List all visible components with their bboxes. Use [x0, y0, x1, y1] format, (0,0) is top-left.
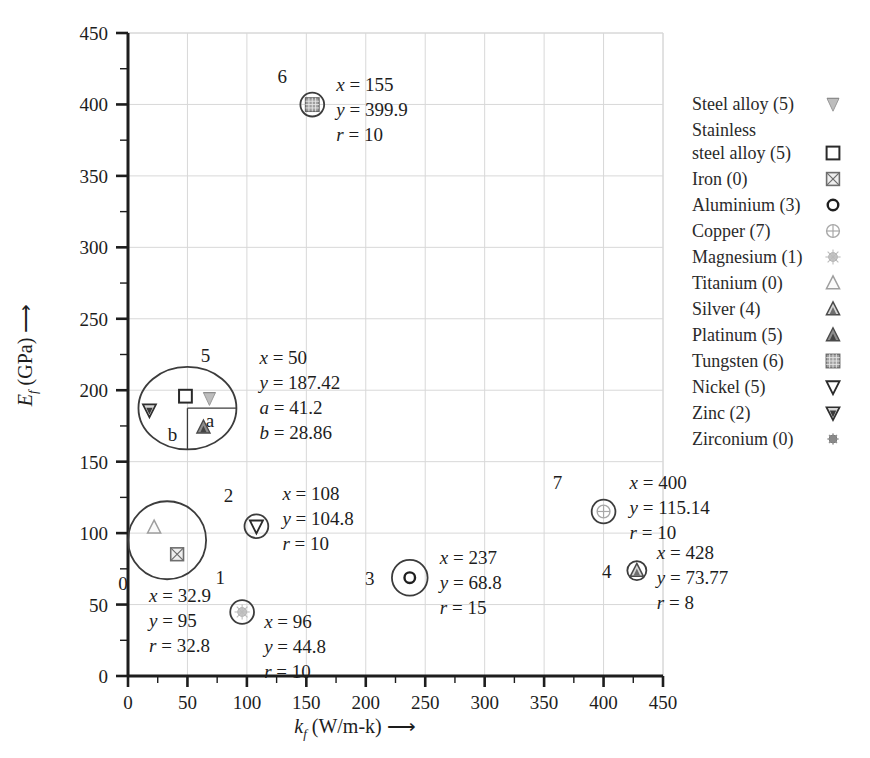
steel-alloy-marker: [203, 393, 215, 406]
cluster-annotation-line: x = 155: [335, 74, 393, 95]
titanium-marker: [826, 276, 839, 289]
cluster-annotation-line: r = 15: [440, 597, 487, 618]
cluster-annotation-line: r = 10: [336, 124, 383, 145]
y-tick-label: 450: [80, 23, 109, 44]
magnesium-marker: [235, 604, 250, 619]
cluster-annotation-line: y = 95: [147, 610, 197, 631]
aluminium-marker: [828, 200, 839, 211]
x-tick-label: 100: [233, 692, 262, 713]
svg-text:kf (W/m-k) ⟶: kf (W/m-k) ⟶: [294, 715, 416, 741]
cluster-id-label: 3: [365, 568, 375, 589]
cluster-id-label: 4: [602, 561, 612, 582]
x-tick-label: 450: [649, 692, 678, 713]
y-tick-label: 100: [80, 523, 109, 544]
zinc-marker: [143, 404, 156, 417]
cluster-annotation-line: r = 10: [630, 522, 677, 543]
zirconium-marker: [827, 433, 839, 445]
cluster-annotation-line: x = 237: [439, 547, 497, 568]
y-tick-label: 0: [99, 666, 109, 687]
y-tick-label: 50: [89, 595, 108, 616]
y-axis-title: Ef (GPa) ⟶: [14, 304, 40, 408]
iron-marker: [171, 548, 184, 561]
x-tick-label: 300: [470, 692, 499, 713]
copper-marker: [827, 225, 840, 238]
cluster-annotation-line: y = 104.8: [280, 508, 353, 529]
legend-label[interactable]: Steel alloy (5): [692, 94, 794, 115]
legend-label[interactable]: Stainless: [692, 120, 756, 140]
legend-label[interactable]: Iron (0): [692, 169, 747, 190]
silver-marker: [826, 302, 839, 315]
cluster-annotation-line: r = 10: [282, 533, 329, 554]
x-tick-label: 400: [589, 692, 618, 713]
semi-axis-b-label: b: [168, 424, 178, 445]
stainless-steel-alloy-marker: [179, 390, 192, 403]
cluster-annotation-line: x = 400: [629, 472, 687, 493]
silver-marker: [630, 563, 643, 576]
cluster-annotation-line: y = 399.9: [334, 99, 407, 120]
tungsten-marker: [305, 98, 319, 112]
cluster-annotation-line: x = 108: [281, 483, 339, 504]
chart-canvas: 0501001502002503003504004500501001502002…: [0, 0, 870, 758]
legend-label[interactable]: Zinc (2): [692, 403, 750, 424]
cluster-id-label: 0: [118, 573, 128, 594]
x-tick-label: 150: [292, 692, 321, 713]
y-tick-label: 400: [80, 94, 109, 115]
legend-label[interactable]: Nickel (5): [692, 377, 765, 398]
cluster-id-label: 5: [201, 345, 211, 366]
titanium-marker: [148, 520, 161, 533]
y-tick-label: 150: [80, 452, 109, 473]
magnesium-marker: [825, 249, 840, 264]
x-tick-label: 250: [411, 692, 440, 713]
x-axis-title: kf (W/m-k) ⟶: [294, 715, 416, 741]
legend-label[interactable]: Zirconium (0): [692, 429, 793, 450]
scatter-chart: 0501001502002503003504004500501001502002…: [0, 0, 870, 758]
legend-label[interactable]: Titanium (0): [692, 273, 783, 294]
x-tick-label: 0: [123, 692, 133, 713]
cluster-annotation-line: x = 50: [258, 347, 307, 368]
svg-text:Ef (GPa) ⟶: Ef (GPa) ⟶: [14, 304, 40, 408]
tungsten-marker: [826, 354, 840, 368]
cluster-annotation-line: y = 115.14: [628, 497, 711, 518]
stainless-steel-alloy-marker: [827, 147, 840, 160]
copper-marker: [597, 505, 610, 518]
legend-label[interactable]: Magnesium (1): [692, 247, 802, 268]
cluster-annotation-line: x = 32.9: [148, 585, 211, 606]
x-title-arrow: ⟶: [382, 715, 416, 737]
cluster-annotations: x = 32.9y = 95r = 32.8x = 96y = 44.8r = …: [147, 74, 728, 682]
cluster-id-label: 7: [553, 472, 563, 493]
legend-label[interactable]: Aluminium (3): [692, 195, 801, 216]
y-title-unit-text: (GPa): [14, 338, 37, 386]
nickel-marker: [250, 520, 263, 533]
nickel-marker: [826, 381, 839, 394]
legend-label[interactable]: Copper (7): [692, 221, 770, 242]
y-title-symbol: E: [14, 394, 36, 407]
cluster-annotation-line: a = 41.2: [259, 397, 322, 418]
cluster-annotation-line: b = 28.86: [259, 422, 331, 443]
cluster-annotation-line: r = 32.8: [149, 635, 210, 656]
legend-label[interactable]: Silver (4): [692, 299, 760, 320]
y-tick-label: 350: [80, 166, 109, 187]
cluster-annotation-line: y = 73.77: [655, 567, 728, 588]
cluster-circle: [128, 501, 206, 579]
x-title-unit-text: (W/m-k): [312, 715, 382, 738]
platinum-marker: [826, 328, 839, 341]
cluster-annotation-line: y = 44.8: [262, 636, 326, 657]
cluster-annotation-line: r = 8: [657, 592, 694, 613]
cluster-annotation-line: r = 10: [264, 661, 311, 682]
cluster-annotation-line: y = 68.8: [438, 572, 502, 593]
x-tick-label: 350: [530, 692, 559, 713]
legend: Steel alloy (5)Stainlesssteel alloy (5)I…: [692, 94, 841, 450]
y-tick-label: 300: [80, 237, 109, 258]
cluster-id-labels: 01234567: [118, 66, 612, 595]
legend-label-continued[interactable]: steel alloy (5): [692, 143, 791, 164]
y-tick-label: 200: [80, 380, 109, 401]
y-title-arrow: ⟶: [14, 304, 36, 338]
cluster-id-label: 6: [278, 66, 288, 87]
cluster-id-label: 2: [224, 485, 234, 506]
x-tick-label: 200: [352, 692, 381, 713]
x-tick-label: 50: [178, 692, 197, 713]
cluster-id-label: 1: [215, 567, 225, 588]
legend-label[interactable]: Tungsten (6): [692, 351, 784, 372]
cluster-annotation-line: y = 187.42: [257, 372, 340, 393]
legend-label[interactable]: Platinum (5): [692, 325, 783, 346]
